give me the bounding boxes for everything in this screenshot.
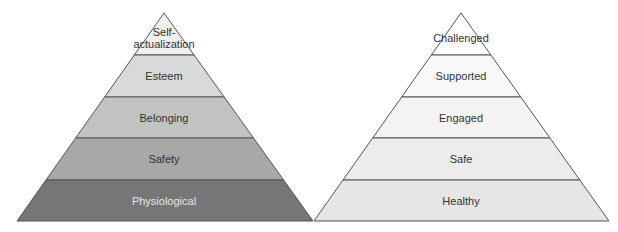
pyramid-level-label: Challenged (433, 32, 489, 44)
pyramid-level-label: Safety (148, 153, 179, 165)
pyramid-level-label: Engaged (439, 112, 483, 124)
pyramid-level-label: Belonging (140, 112, 189, 124)
pyramid-level-label: Physiological (132, 195, 196, 207)
pyramid-level-label: Esteem (145, 70, 182, 82)
pyramid-level-label: Healthy (442, 195, 479, 207)
pyramid-level-label: Safe (450, 153, 473, 165)
pyramid-level-label: Supported (436, 70, 487, 82)
pyramids-canvas (0, 0, 618, 232)
pyramid-level-label: Self-actualization (133, 26, 194, 50)
